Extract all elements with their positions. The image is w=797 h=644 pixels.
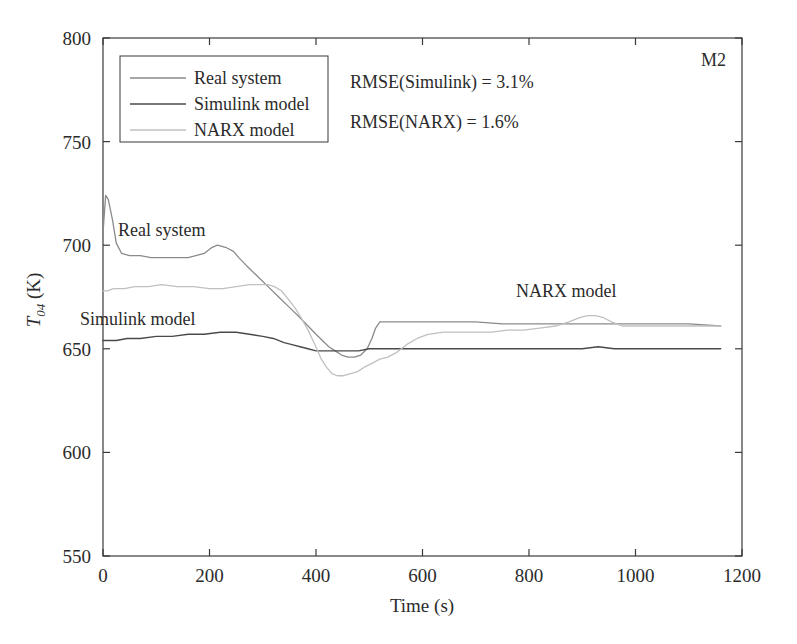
legend-label-simulink-model: Simulink model — [194, 94, 310, 114]
y-tick-label-750: 750 — [63, 132, 92, 153]
y-tick-label-600: 600 — [63, 442, 92, 463]
annotation-curve-simulink: Simulink model — [80, 309, 196, 329]
figure-container: 020040060080010001200550600650700750800 … — [0, 0, 797, 644]
x-tick-label-600: 600 — [408, 565, 437, 586]
legend[interactable]: Real systemSimulink modelNARX model — [120, 56, 328, 142]
y-tick-label-650: 650 — [63, 339, 92, 360]
annotation-rmse-simulink: RMSE(Simulink) = 3.1% — [350, 72, 534, 93]
line-chart: 020040060080010001200550600650700750800 … — [0, 0, 797, 644]
legend-label-narx-model: NARX model — [194, 120, 295, 140]
y-tick-label-700: 700 — [63, 235, 92, 256]
y-axis-title-subscript: 04 — [33, 303, 48, 317]
x-tick-label-200: 200 — [195, 565, 224, 586]
annotation-curve-real-system: Real system — [118, 220, 206, 240]
y-axis-title-unit: (K) — [23, 273, 45, 304]
x-tick-label-800: 800 — [515, 565, 544, 586]
annotation-curve-narx: NARX model — [516, 281, 617, 301]
y-tick-label-550: 550 — [63, 546, 92, 567]
corner-label-m2: M2 — [701, 50, 726, 70]
x-tick-label-400: 400 — [302, 565, 331, 586]
x-axis-title: Time (s) — [390, 595, 454, 617]
annotation-rmse-narx: RMSE(NARX) = 1.6% — [350, 112, 519, 133]
x-tick-label-1000: 1000 — [617, 565, 655, 586]
y-tick-label-800: 800 — [63, 28, 92, 49]
x-tick-label-1200: 1200 — [723, 565, 761, 586]
legend-label-real-system: Real system — [194, 68, 282, 88]
x-tick-label-0: 0 — [98, 565, 108, 586]
